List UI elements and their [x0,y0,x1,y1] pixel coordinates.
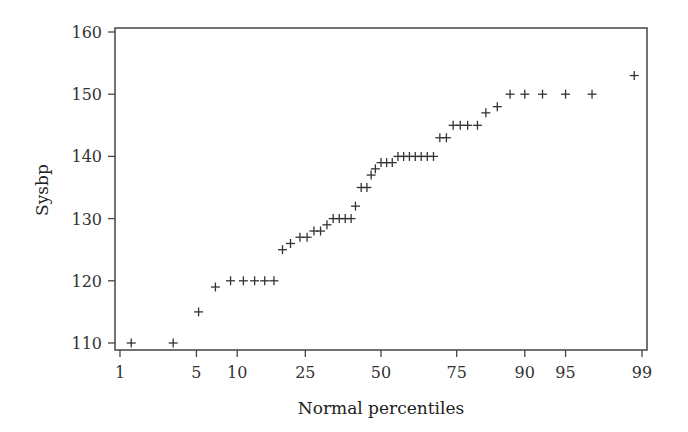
y-axis-title: Sysbp [32,164,52,216]
x-tick-label: 25 [295,363,315,382]
data-point-plus-icon [506,90,515,99]
data-point-plus-icon [260,276,269,285]
y-tick-label: 160 [71,23,102,42]
data-point-plus-icon [316,227,325,236]
x-tick-label: 10 [227,363,247,382]
x-axis: 1510255075909599 [115,350,652,382]
data-point-plus-icon [347,214,356,223]
y-tick-label: 140 [71,147,102,166]
data-point-plus-icon [367,171,376,180]
data-point-plus-icon [239,276,248,285]
data-point-plus-icon [520,90,529,99]
x-tick-label: 95 [555,363,575,382]
data-point-plus-icon [322,220,331,229]
y-tick-label: 120 [71,272,102,291]
data-point-plus-icon [388,158,397,167]
y-tick-label: 130 [71,210,102,229]
y-tick-label: 150 [71,85,102,104]
data-point-plus-icon [278,245,287,254]
x-tick-label: 90 [515,363,535,382]
data-point-plus-icon [442,133,451,142]
normal-probability-plot: 110120130140150160 1510255075909599 Sysb… [0,0,688,432]
data-point-plus-icon [463,121,472,130]
data-point-plus-icon [481,108,490,117]
data-point-plus-icon [630,71,639,80]
data-point-plus-icon [588,90,597,99]
data-point-plus-icon [169,339,178,348]
data-point-plus-icon [429,152,438,161]
data-point-plus-icon [211,283,220,292]
x-tick-label: 50 [371,363,391,382]
y-tick-label: 110 [71,334,102,353]
plot-frame [115,28,647,350]
x-tick-label: 75 [446,363,466,382]
data-point-plus-icon [226,276,235,285]
y-axis: 110120130140150160 [71,23,115,353]
data-point-plus-icon [303,233,312,242]
data-point-plus-icon [250,276,259,285]
data-point-plus-icon [362,183,371,192]
data-point-plus-icon [269,276,278,285]
x-tick-label: 99 [632,363,652,382]
x-tick-label: 1 [115,363,125,382]
data-point-plus-icon [286,239,295,248]
data-points [127,71,639,347]
data-point-plus-icon [473,121,482,130]
x-axis-title: Normal percentiles [298,398,464,418]
data-point-plus-icon [194,307,203,316]
data-point-plus-icon [351,202,360,211]
data-point-plus-icon [371,164,380,173]
x-tick-label: 5 [191,363,201,382]
data-point-plus-icon [493,102,502,111]
data-point-plus-icon [561,90,570,99]
data-point-plus-icon [127,339,136,348]
data-point-plus-icon [538,90,547,99]
